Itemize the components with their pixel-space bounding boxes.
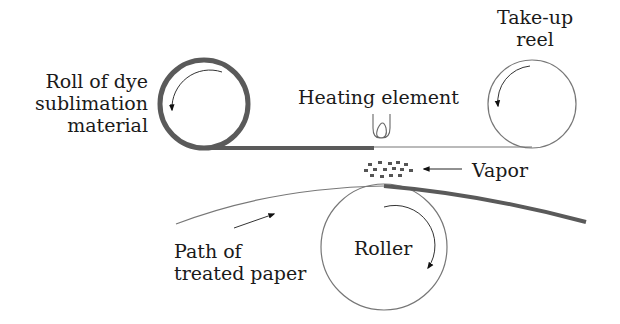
vapor-particles-icon — [364, 161, 413, 178]
label-line: reel — [490, 28, 580, 50]
heating-element-icon — [373, 114, 390, 138]
paper-direction-arrow-icon — [234, 214, 274, 228]
rotation-arrow-icon — [172, 70, 222, 110]
diagram-canvas: Roll of dye sublimation material Take-up… — [0, 0, 620, 324]
takeup-reel — [488, 60, 576, 148]
label-line: Roll of dye — [20, 70, 148, 92]
label-line: Take-up — [490, 6, 580, 28]
paper-path-label: Path of treated paper — [174, 240, 306, 284]
label-line: treated paper — [174, 262, 306, 284]
supply-roll-label: Roll of dye sublimation material — [20, 70, 148, 136]
heating-element-label: Heating element — [298, 86, 459, 108]
vapor-label: Vapor — [472, 159, 528, 181]
label-line: material — [20, 114, 148, 136]
label-line: sublimation — [20, 92, 148, 114]
label-line: Path of — [174, 240, 306, 262]
roller-label: Roller — [354, 237, 412, 259]
supply-roll — [160, 60, 248, 148]
takeup-reel-label: Take-up reel — [490, 6, 580, 50]
